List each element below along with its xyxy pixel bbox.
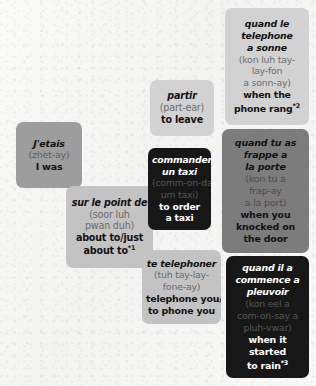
flashcard-te-telephoner[interactable]: te telephoner (tuh tay-lay- fone-ay) tel… xyxy=(142,250,221,324)
french-line: partir xyxy=(154,90,210,102)
english-line: to order xyxy=(152,201,207,213)
footnote-marker: *1 xyxy=(128,244,136,252)
footnote-marker: *3 xyxy=(281,359,288,367)
french-line: un taxi xyxy=(152,166,207,178)
english-text: phone rang xyxy=(234,103,292,114)
english-text: about to xyxy=(84,245,128,256)
flashcard-quand-le-telephone-a-sonne[interactable]: quand le telephone a sonne (kon luh tay-… xyxy=(225,8,309,125)
french-line: la porte xyxy=(226,161,305,173)
french-line: a sonne xyxy=(229,42,305,54)
flashcard-sur-le-point-de[interactable]: sur le point de (soor luh pwan duh) abou… xyxy=(66,186,153,268)
footnote-marker: *2 xyxy=(293,102,300,110)
flashcard-commander-un-taxi[interactable]: commander un taxi (comm-on-day um taxi) … xyxy=(148,148,211,230)
english-line: when it xyxy=(230,334,305,346)
phonetic-line: a la port) xyxy=(226,197,305,209)
french-line: te telephoner xyxy=(146,258,217,270)
french-line: quand il a xyxy=(230,262,305,274)
english-line: to leave xyxy=(154,114,210,126)
flashcard-jetais[interactable]: J'etais (zhet-ay) I was xyxy=(16,122,82,188)
french-line: telephone xyxy=(229,30,305,42)
english-line: to phone you xyxy=(146,305,217,317)
english-line: a taxi xyxy=(152,212,207,224)
phonetic-line: com-on-say a xyxy=(230,310,305,322)
phonetic-line: (part-ear) xyxy=(154,102,210,114)
english-line: I was xyxy=(20,161,78,173)
phonetic-line: (soor luh xyxy=(70,209,149,221)
english-line: to rain*3 xyxy=(230,358,305,372)
phonetic-line: pluh-vwar) xyxy=(230,322,305,334)
phonetic-line: (kon tu a xyxy=(226,173,305,185)
english-line: about to*1 xyxy=(70,243,149,257)
phonetic-line: (comm-on-day xyxy=(152,177,207,189)
french-line: sur le point de xyxy=(70,197,149,209)
english-line: phone rang*2 xyxy=(229,101,305,115)
french-line: quand tu as xyxy=(226,137,305,149)
english-line: telephone you/ xyxy=(146,293,217,305)
french-line: frappe a xyxy=(226,149,305,161)
phonetic-line: fone-ay) xyxy=(146,281,217,293)
english-line: about to/just xyxy=(70,232,149,244)
flashcard-quand-tu-as-frappe-a-la-porte[interactable]: quand tu as frappe a la porte (kon tu a … xyxy=(222,129,309,253)
french-line: commence a xyxy=(230,274,305,286)
flashcard-partir[interactable]: partir (part-ear) to leave xyxy=(150,80,214,136)
english-text: to rain xyxy=(247,360,281,371)
flashcard-quand-il-a-commence-a-pleuvoir[interactable]: quand il a commence a pleuvoir (kon eel … xyxy=(226,256,309,378)
english-line: the door xyxy=(226,233,305,245)
phonetic-line: lay-fon xyxy=(229,65,305,77)
phonetic-line: frap-ay xyxy=(226,185,305,197)
phonetic-line: (zhet-ay) xyxy=(20,149,78,161)
phonetic-line: (kon eel a xyxy=(230,298,305,310)
english-line: knocked on xyxy=(226,221,305,233)
french-line: J'etais xyxy=(20,138,78,150)
phonetic-line: (kon luh tay- xyxy=(229,54,305,66)
french-line: pleuvoir xyxy=(230,286,305,298)
english-line: started xyxy=(230,346,305,358)
english-line: when the xyxy=(229,89,305,101)
phonetic-line: pwan duh) xyxy=(70,220,149,232)
french-line: commander xyxy=(152,154,207,166)
phonetic-line: (tuh tay-lay- xyxy=(146,269,217,281)
english-line: when you xyxy=(226,209,305,221)
phonetic-line: a sonn-ay) xyxy=(229,77,305,89)
french-line: quand le xyxy=(229,18,305,30)
phonetic-line: um taxi) xyxy=(152,189,207,201)
